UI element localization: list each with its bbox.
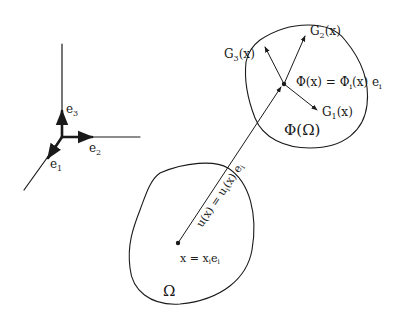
mapped-point-label: Φ(x) = Φi(x) ei bbox=[296, 75, 382, 91]
displacement-vector bbox=[178, 87, 281, 243]
basis-vector-e1 bbox=[48, 137, 62, 158]
label-g3: G3(x) bbox=[224, 47, 255, 63]
region-phi-omega-label: Φ(Ω) bbox=[284, 121, 320, 139]
label-g1: G1(x) bbox=[322, 105, 353, 121]
vector-g3 bbox=[265, 47, 284, 84]
region-omega-boundary bbox=[129, 163, 254, 304]
point-x bbox=[176, 241, 180, 245]
coordinate-axes: e3 e2 e1 bbox=[24, 44, 140, 190]
region-omega-label: Ω bbox=[163, 282, 175, 300]
label-e1: e1 bbox=[50, 157, 62, 173]
label-e2: e2 bbox=[89, 141, 101, 157]
displacement-label: u(x) = ui(x) ei bbox=[194, 160, 248, 230]
label-g2: G2(x) bbox=[310, 24, 341, 40]
point-x-label: x = xiei bbox=[180, 252, 220, 266]
label-e3: e3 bbox=[66, 102, 78, 118]
deformation-diagram: e3 e2 e1 Ω Φ(Ω) u(x) = ui(x) ei x = xiei… bbox=[0, 0, 418, 323]
